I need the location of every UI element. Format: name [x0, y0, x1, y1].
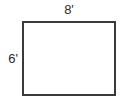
- diagram-canvas: 8' 6': [0, 0, 126, 102]
- height-dimension-label: 6': [0, 21, 20, 96]
- width-dimension-label: 8': [22, 3, 116, 17]
- rectangle-shape: [22, 21, 116, 96]
